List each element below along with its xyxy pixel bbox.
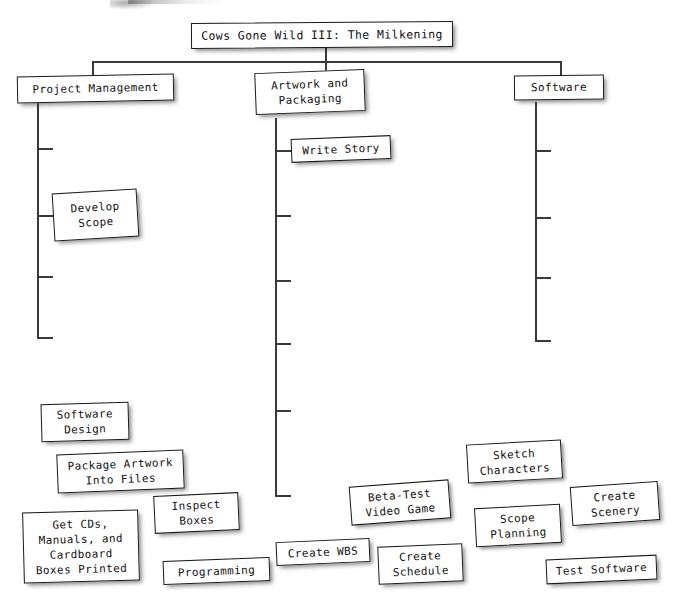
node-branch-software[interactable]: Software <box>514 75 604 101</box>
tick-project-management-4 <box>37 337 53 339</box>
spine-project-management <box>37 102 39 338</box>
spine-software <box>535 102 537 341</box>
node-branch-artwork-packaging[interactable]: Artwork and Packaging <box>254 69 366 115</box>
tick-artwork-packaging-1 <box>275 150 291 152</box>
connector-main-bus <box>92 61 561 63</box>
node-get-cds-manuals-cardboard-boxes-printed[interactable]: Get CDs, Manuals, and Cardboard Boxes Pr… <box>22 509 140 583</box>
connector-root-stem <box>325 46 327 62</box>
node-software-design[interactable]: Software Design <box>40 402 129 442</box>
tick-artwork-packaging-4 <box>275 343 291 345</box>
node-package-artwork-into-files[interactable]: Package Artwork Into Files <box>56 449 184 493</box>
tick-artwork-packaging-2 <box>275 215 291 217</box>
node-create-wbs[interactable]: Create WBS <box>276 538 371 566</box>
tick-artwork-packaging-5 <box>275 410 291 412</box>
spine-artwork-packaging <box>275 118 277 496</box>
node-develop-scope[interactable]: Develop Scope <box>52 189 140 242</box>
scan-artifact <box>110 0 240 12</box>
tick-project-management-1 <box>37 148 53 150</box>
wbs-diagram-canvas: Cows Gone Wild III: The Milkening Projec… <box>0 0 680 608</box>
node-sketch-characters[interactable]: Sketch Characters <box>466 439 563 483</box>
tick-software-1 <box>535 150 551 152</box>
node-inspect-boxes[interactable]: Inspect Boxes <box>153 492 240 534</box>
tick-project-management-3 <box>37 276 53 278</box>
node-beta-test-video-game[interactable]: Beta-Test Video Game <box>349 479 452 525</box>
node-programming[interactable]: Programming <box>163 557 271 585</box>
tick-artwork-packaging-3 <box>275 280 291 282</box>
node-create-scenery[interactable]: Create Scenery <box>570 481 661 526</box>
tick-artwork-packaging-6 <box>275 495 291 497</box>
tick-project-management-2 <box>37 215 53 217</box>
node-write-story[interactable]: Write Story <box>291 135 392 163</box>
tick-software-2 <box>535 217 551 219</box>
tick-software-3 <box>535 277 551 279</box>
node-create-schedule[interactable]: Create Schedule <box>377 543 464 585</box>
node-scope-planning[interactable]: Scope Planning <box>474 504 562 548</box>
tick-software-4 <box>535 340 551 342</box>
node-branch-project-management[interactable]: Project Management <box>17 73 174 103</box>
node-root[interactable]: Cows Gone Wild III: The Milkening <box>191 21 453 49</box>
node-test-software[interactable]: Test Software <box>546 555 658 585</box>
